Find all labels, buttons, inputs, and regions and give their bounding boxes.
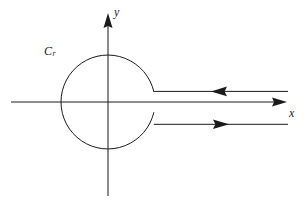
circle-label-cr: Cr: [44, 45, 56, 58]
contour-drawing: [0, 0, 307, 206]
contour-figure: y x Cr: [0, 0, 307, 206]
y-axis-arrowhead: [104, 13, 113, 28]
x-axis-arrowhead: [272, 98, 287, 107]
circle-label-base: C: [44, 44, 52, 58]
upper-ray-arrowhead-left: [211, 87, 227, 97]
circle-label-subscript: r: [53, 49, 56, 58]
x-axis-label: x: [289, 107, 294, 119]
lower-ray-arrowhead-right: [213, 120, 229, 130]
y-axis-label: y: [114, 6, 119, 18]
